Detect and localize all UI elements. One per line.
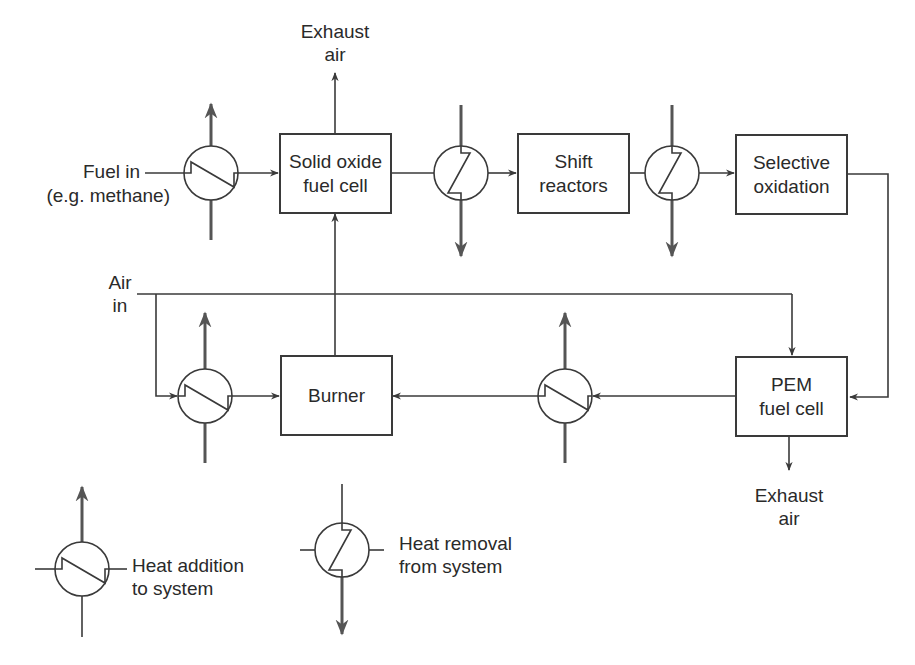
block-solid-oxide-fuel-cell: Solid oxide fuel cell bbox=[279, 133, 392, 214]
block-burner: Burner bbox=[280, 355, 393, 436]
legend-heat-addition-icon bbox=[35, 487, 127, 637]
air-to-hx4-arrow bbox=[156, 294, 177, 396]
hx5-heat-addition-icon bbox=[538, 313, 592, 463]
block-label: Solid oxide bbox=[289, 150, 382, 174]
hx1-heat-addition-icon bbox=[184, 104, 238, 240]
label-line: (e.g. methane) bbox=[20, 184, 170, 207]
label-air-in: Air in bbox=[100, 271, 140, 317]
block-label: Selective bbox=[753, 151, 830, 175]
legend-line: to system bbox=[132, 577, 244, 600]
legend-heat-removal-text: Heat removal from system bbox=[399, 532, 512, 578]
block-label: Burner bbox=[308, 384, 365, 408]
hx3-heat-removal-icon bbox=[645, 105, 699, 256]
block-label: oxidation bbox=[753, 175, 829, 199]
label-fuel-example: (e.g. methane) bbox=[20, 184, 170, 207]
label-line: Fuel in bbox=[20, 160, 140, 183]
label-exhaust-air-top: Exhaust air bbox=[285, 20, 385, 66]
label-line: Exhaust bbox=[739, 484, 839, 507]
block-label: reactors bbox=[539, 174, 608, 198]
legend-line: Heat addition bbox=[132, 554, 244, 577]
legend-heat-removal-icon bbox=[300, 484, 384, 634]
hx2-heat-removal-icon bbox=[434, 105, 488, 256]
label-fuel-in: Fuel in bbox=[20, 160, 140, 183]
block-label: fuel cell bbox=[303, 174, 367, 198]
label-line: air bbox=[285, 43, 385, 66]
block-label: Shift bbox=[554, 150, 592, 174]
block-pem-fuel-cell: PEM fuel cell bbox=[735, 356, 848, 437]
label-line: Air bbox=[100, 271, 140, 294]
block-shift-reactors: Shift reactors bbox=[517, 133, 630, 214]
legend-line: from system bbox=[399, 555, 512, 578]
label-line: Exhaust bbox=[285, 20, 385, 43]
selox-to-pem-arrow bbox=[848, 174, 888, 397]
block-label: fuel cell bbox=[759, 397, 823, 421]
label-line: in bbox=[100, 294, 140, 317]
block-selective-oxidation: Selective oxidation bbox=[735, 134, 848, 215]
legend-line: Heat removal bbox=[399, 532, 512, 555]
label-exhaust-air-bottom: Exhaust air bbox=[739, 484, 839, 530]
block-label: PEM bbox=[771, 373, 812, 397]
legend-heat-addition-text: Heat addition to system bbox=[132, 554, 244, 600]
hx4-heat-addition-icon bbox=[178, 313, 232, 463]
label-line: air bbox=[739, 507, 839, 530]
